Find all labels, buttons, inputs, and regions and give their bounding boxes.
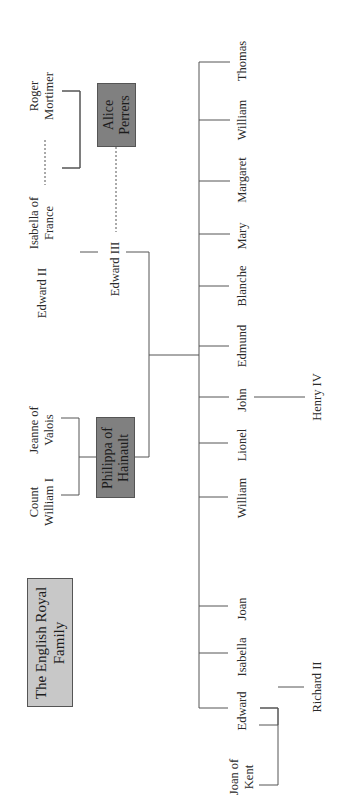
parents-edward-iii-bracket (62, 91, 80, 168)
edward-joan-bracket (259, 708, 278, 725)
parents-philippa-bracket (61, 418, 79, 495)
isabella-of-france-label: Isabella of France (27, 197, 57, 249)
child-edmund: Edmund (235, 325, 250, 367)
child-isabella: Isabella (235, 638, 250, 677)
roger-mortimer-label: Roger Mortimer (27, 72, 57, 120)
child-joan: Joan (235, 598, 250, 621)
child-edward: Edward (235, 692, 250, 731)
edward-ii-label: Edward II (35, 268, 50, 318)
henry-iv-label: Henry IV (310, 373, 325, 421)
child-mary: Mary (235, 222, 250, 249)
jeanne-of-valois-label: Jeanne of Valois (27, 406, 57, 454)
child-lionel: Lionel (235, 429, 250, 462)
child-margaret: Margaret (235, 157, 250, 203)
philippa-of-hainault-box: Philippa of Hainault (96, 417, 135, 498)
child-john: John (235, 388, 250, 412)
family-tree-diagram: Roger Mortimer Isabella of France Edward… (0, 0, 345, 798)
alice-perrers-box: Alice Perrers (97, 83, 136, 147)
count-william-label: Count William I (27, 478, 57, 526)
edward-iii-label: Edward III (108, 242, 123, 297)
child-blanche: Blanche (235, 266, 250, 307)
child-william-1: William (235, 478, 250, 518)
joan-of-kent-label: Joan of Kent (227, 759, 257, 795)
richard-ii-label: Richard II (310, 661, 325, 712)
title-box: The English Royal Family (27, 578, 73, 707)
child-william-2: William (235, 100, 250, 140)
child-thomas: Thomas (235, 41, 250, 81)
